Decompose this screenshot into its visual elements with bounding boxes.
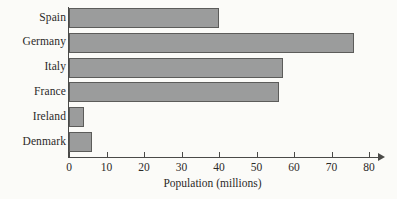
category-label-france: France — [34, 85, 66, 97]
category-label-germany: Germany — [23, 35, 67, 47]
tick-mark-40 — [219, 152, 220, 158]
bar-spain — [69, 8, 219, 28]
category-label-denmark: Denmark — [23, 135, 67, 147]
tick-mark-60 — [294, 152, 295, 158]
tick-label-20: 20 — [129, 161, 159, 173]
tick-label-0: 0 — [54, 161, 84, 173]
tick-mark-20 — [144, 152, 145, 158]
tick-label-10: 10 — [92, 161, 122, 173]
category-label-ireland: Ireland — [33, 110, 66, 122]
category-label-spain: Spain — [39, 11, 66, 23]
tick-label-60: 60 — [279, 161, 309, 173]
tick-label-40: 40 — [204, 161, 234, 173]
bar-germany — [69, 33, 354, 53]
tick-mark-80 — [369, 152, 370, 158]
tick-label-50: 50 — [242, 161, 272, 173]
bar-ireland — [69, 107, 84, 127]
tick-mark-50 — [257, 152, 258, 158]
x-axis-title: Population (millions) — [0, 177, 397, 189]
tick-mark-0 — [69, 152, 70, 158]
tick-mark-70 — [332, 152, 333, 158]
tick-label-70: 70 — [317, 161, 347, 173]
plot-area: SpainGermanyItalyFranceIrelandDenmark 01… — [0, 0, 397, 199]
bar-denmark — [69, 132, 92, 152]
x-axis-line — [68, 157, 380, 158]
tick-mark-30 — [182, 152, 183, 158]
bar-chart: SpainGermanyItalyFranceIrelandDenmark 01… — [0, 0, 397, 199]
category-label-italy: Italy — [44, 60, 66, 72]
tick-label-30: 30 — [167, 161, 197, 173]
tick-label-80: 80 — [354, 161, 384, 173]
bar-france — [69, 82, 279, 102]
bar-italy — [69, 58, 283, 78]
x-axis-arrow-icon — [378, 153, 385, 161]
tick-mark-10 — [107, 152, 108, 158]
x-axis-title-text: Population (millions) — [163, 177, 261, 189]
